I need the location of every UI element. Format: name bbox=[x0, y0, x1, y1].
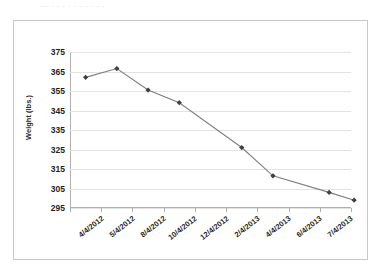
scanned-page-bleed-text: … . . . . . . . . . . bbox=[40, 0, 340, 14]
x-axis-tick bbox=[289, 208, 290, 212]
gridline bbox=[70, 130, 351, 131]
x-axis-tick bbox=[101, 208, 102, 212]
gridline bbox=[70, 169, 351, 170]
data-point-marker bbox=[114, 66, 119, 71]
y-tick-label: 335 bbox=[51, 125, 65, 135]
y-tick-label: 365 bbox=[51, 67, 65, 77]
gridline bbox=[70, 189, 351, 190]
gridline bbox=[70, 150, 351, 151]
gridline bbox=[70, 208, 351, 209]
data-point-marker bbox=[327, 190, 332, 195]
series-line bbox=[86, 69, 355, 201]
gridline bbox=[70, 52, 351, 53]
y-tick-label: 375 bbox=[51, 47, 65, 57]
data-point-marker bbox=[83, 75, 88, 80]
x-axis-tick bbox=[164, 208, 165, 212]
x-axis-tick bbox=[257, 208, 258, 212]
y-axis-title: Weight (lbs.) bbox=[24, 68, 33, 168]
y-tick-label: 305 bbox=[51, 184, 65, 194]
plot-area: 295305315325335345355365375 4/4/20125/4/… bbox=[70, 52, 351, 208]
data-point-marker bbox=[352, 198, 357, 203]
y-tick-label: 315 bbox=[51, 164, 65, 174]
x-axis-tick bbox=[132, 208, 133, 212]
y-tick-label: 325 bbox=[51, 145, 65, 155]
gridline bbox=[70, 72, 351, 73]
data-point-marker bbox=[270, 173, 275, 178]
gridline bbox=[70, 91, 351, 92]
x-axis-tick bbox=[226, 208, 227, 212]
x-axis-tick bbox=[195, 208, 196, 212]
y-tick-label: 355 bbox=[51, 86, 65, 96]
y-tick-label: 345 bbox=[51, 106, 65, 116]
data-point-marker bbox=[177, 100, 182, 105]
y-tick-label: 295 bbox=[51, 203, 65, 213]
x-axis-tick bbox=[320, 208, 321, 212]
chart-container: Weight (lbs.) 29530531532533534535536537… bbox=[13, 20, 368, 260]
x-axis-tick bbox=[70, 208, 71, 212]
gridline bbox=[70, 111, 351, 112]
chart-plot-region: Weight (lbs.) 29530531532533534535536537… bbox=[14, 21, 367, 259]
x-axis-tick bbox=[351, 208, 352, 212]
